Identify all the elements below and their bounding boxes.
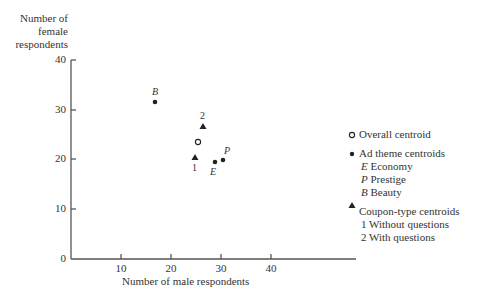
point-prestige	[221, 158, 226, 163]
legend-triangle-icon	[349, 202, 356, 208]
legend-beauty: B Beauty	[359, 186, 460, 199]
point-label-e: E	[210, 166, 216, 177]
legend-with-questions: 2 With questions	[359, 231, 460, 244]
x-tick-label-20: 20	[159, 262, 183, 274]
legend-prestige-name: Prestige	[370, 173, 405, 185]
point-without-questions	[192, 154, 199, 160]
legend-economy-key: E	[361, 160, 368, 172]
point-label-1: 1	[192, 162, 197, 173]
legend-economy-name: Economy	[370, 160, 412, 172]
y-tick-label-10: 10	[46, 202, 66, 214]
legend-open-circle-icon	[349, 132, 354, 137]
legend: Overall centroid Ad theme centroids E Ec…	[359, 128, 460, 244]
x-tick-label-30: 30	[209, 262, 233, 274]
legend-prestige-key: P	[361, 173, 368, 185]
point-label-2: 2	[200, 110, 205, 121]
y-tick-label-20: 20	[46, 152, 66, 164]
point-label-p: P	[224, 145, 230, 156]
point-label-b: B	[152, 86, 158, 97]
y-tick-label-40: 40	[46, 53, 66, 65]
y-tick-label-0: 0	[46, 252, 66, 264]
legend-overall-centroid: Overall centroid	[359, 128, 460, 141]
legend-economy: E Economy	[359, 160, 460, 173]
x-axis-label: Number of male respondents	[122, 275, 249, 287]
point-beauty	[153, 100, 158, 105]
point-with-questions	[200, 123, 207, 129]
legend-filled-circle-icon	[350, 152, 354, 156]
legend-beauty-key: B	[361, 186, 368, 198]
y-tick-label-30: 30	[46, 103, 66, 115]
legend-without-questions: 1 Without questions	[359, 218, 460, 231]
legend-coupon-type-centroids: Coupon-type centroids	[359, 205, 460, 218]
legend-prestige: P Prestige	[359, 173, 460, 186]
x-tick-label-40: 40	[259, 262, 283, 274]
point-economy	[213, 160, 218, 165]
x-tick-label-10: 10	[109, 262, 133, 274]
point-overall-centroid	[195, 139, 200, 144]
legend-ad-theme-centroids: Ad theme centroids	[359, 147, 460, 160]
legend-beauty-name: Beauty	[370, 186, 401, 198]
